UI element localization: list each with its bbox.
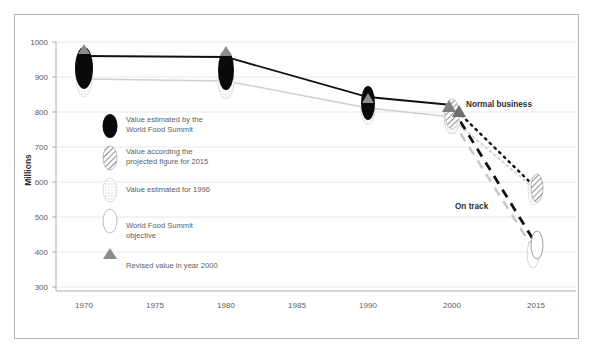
y-axis-title: Millions (23, 154, 33, 186)
marker-gray-triangle-1980 (220, 46, 232, 56)
marker-hatched-2015 (531, 174, 543, 202)
x-tick-1975: 1975 (146, 301, 164, 310)
legend-item-wfs-objective: World Food Summit objective (103, 209, 194, 240)
legend-label-wfs-line1: Value estimated by the (126, 115, 203, 124)
x-tick-1985: 1985 (288, 301, 306, 310)
legend-label-projected-line1: Value according the (126, 147, 193, 156)
legend-marker-gray-triangle (103, 248, 117, 259)
y-tick-500: 500 (35, 213, 49, 222)
series-line-estimated-1996 (84, 79, 452, 117)
legend-label-wfs-line2: World Food Summit (126, 125, 194, 134)
data-point-1990 (361, 86, 375, 125)
y-tick-1000: 1000 (30, 38, 48, 47)
projection-normal-business-light-dotted (452, 119, 536, 190)
data-point-1970 (75, 44, 93, 97)
annotation-on-track: On track (455, 202, 489, 211)
legend-marker-white-ellipse (103, 209, 117, 233)
legend-item-projected-2015: Value according the projected figure for… (103, 146, 208, 170)
legend-label-objective-line1: World Food Summit (126, 221, 194, 230)
x-tick-1970: 1970 (75, 301, 93, 310)
x-tick-1990: 1990 (359, 301, 377, 310)
x-axis-tick-labels: 1970 1975 1980 1985 1990 2000 2015 (75, 301, 545, 310)
legend-label-revised-2000: Revised value in year 2000 (126, 261, 218, 270)
data-point-1980 (218, 46, 234, 99)
legend-item-revised-2000: Revised value in year 2000 (103, 248, 218, 270)
y-tick-900: 900 (35, 73, 49, 82)
legend-marker-black-ellipse (103, 114, 118, 138)
legend-label-projected-line2: projected figure for 2015 (126, 157, 208, 166)
y-tick-700: 700 (35, 143, 49, 152)
chart-plot-area: 1000 900 800 700 600 500 400 300 Million… (0, 0, 608, 354)
x-tick-1980: 1980 (217, 301, 235, 310)
legend-item-world-food-summit: Value estimated by the World Food Summit (103, 114, 203, 138)
annotation-normal-business: Normal business (466, 100, 532, 109)
x-tick-2000: 2000 (443, 301, 461, 310)
y-tick-800: 800 (35, 108, 49, 117)
y-tick-400: 400 (35, 248, 49, 257)
projection-on-track-light-dashed (452, 120, 536, 253)
legend-marker-hatched-ellipse (103, 146, 117, 170)
chart-legend: Value estimated by the World Food Summit… (103, 114, 218, 270)
chart-container: 1000 900 800 700 600 500 400 300 Million… (0, 0, 608, 354)
marker-gray-triangle-1970 (78, 44, 90, 54)
y-tick-600: 600 (35, 178, 49, 187)
x-tick-2015: 2015 (527, 301, 545, 310)
marker-white-ellipse-2015-dark (531, 231, 543, 259)
legend-marker-light-dotted-ellipse (103, 178, 117, 202)
data-point-2015 (527, 174, 543, 268)
series-line-world-food-summit (84, 56, 452, 105)
legend-label-estimated-1996: Value estimated for 1996 (126, 185, 210, 194)
y-tick-300: 300 (35, 283, 49, 292)
legend-label-objective-line2: objective (126, 231, 156, 240)
